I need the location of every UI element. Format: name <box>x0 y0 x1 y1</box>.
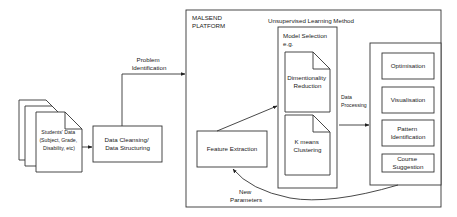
data-cleansing-label: Data Cleansing/ Data Structuring <box>105 136 151 151</box>
arrow-problem-identification <box>122 74 185 126</box>
kmeans-clustering-label: K means Clustering <box>294 138 322 153</box>
unsupervised-learning-title: Unsupervised Learning Method <box>268 17 355 24</box>
arrow-feature-to-model <box>217 106 277 131</box>
data-processing-label: Data Processing <box>341 94 367 108</box>
output-visualisation: Visualisation <box>382 87 434 113</box>
malsend-diagram: Students' Data (Subject, Grade, Disabili… <box>0 0 457 217</box>
optimisation-label: Optimisation <box>391 62 426 69</box>
problem-identification-label: Problem Identification <box>132 56 167 71</box>
feature-extraction-label: Feature Extraction <box>207 145 258 152</box>
data-cleansing-box: Data Cleansing/ Data Structuring <box>93 126 162 162</box>
new-parameters-label: New Parameters <box>230 188 262 203</box>
students-data-label: Students' Data (Subject, Grade, Disabili… <box>39 129 78 151</box>
platform-label: MALSEND PLATFORM <box>192 14 225 29</box>
output-pattern-identification: Pattern Identification <box>382 120 434 146</box>
output-course-suggestion: Course Suggestion <box>382 154 434 172</box>
feature-extraction-box: Feature Extraction <box>197 131 267 167</box>
students-data-documents: Students' Data (Subject, Grade, Disabili… <box>19 100 82 172</box>
output-optimisation: Optimisation <box>382 53 434 79</box>
visualisation-label: Visualisation <box>391 96 426 103</box>
